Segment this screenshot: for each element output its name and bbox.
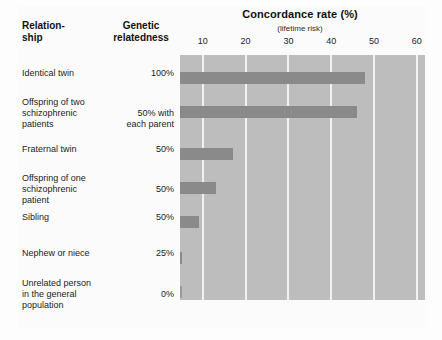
- row-value-line: each parent: [104, 119, 174, 130]
- row-value-line: 50%: [104, 212, 174, 223]
- bar-row-1: [180, 72, 365, 84]
- row-label-line: population: [22, 300, 108, 311]
- row-value-genetic-relatedness-7: 0%: [104, 289, 174, 300]
- x-axis-tick-20: 20: [241, 36, 251, 46]
- row-value-genetic-relatedness-3: 50%: [104, 144, 174, 155]
- row-label-relationship-5: Sibling: [22, 212, 108, 223]
- row-label-line: schizophrenic: [22, 108, 108, 119]
- row-label-line: in the general: [22, 289, 108, 300]
- row-label-relationship-1: Identical twin: [22, 68, 108, 79]
- bar-row-2: [180, 106, 357, 118]
- plot-area: [180, 55, 425, 300]
- gridline-40: [330, 55, 332, 300]
- x-axis-tick-30: 30: [283, 36, 293, 46]
- row-value-genetic-relatedness-4: 50%: [104, 184, 174, 195]
- row-label-line: Sibling: [22, 212, 108, 223]
- row-value-genetic-relatedness-6: 25%: [104, 248, 174, 259]
- row-label-relationship-7: Unrelated personin the generalpopulation: [22, 278, 108, 311]
- x-axis-tick-60: 60: [412, 36, 422, 46]
- gridline-50: [373, 55, 375, 300]
- row-label-line: Unrelated person: [22, 278, 108, 289]
- bar-row-4: [180, 182, 216, 194]
- row-label-relationship-3: Fraternal twin: [22, 144, 108, 155]
- row-value-line: 50%: [104, 184, 174, 195]
- row-value-line: 50%: [104, 144, 174, 155]
- row-label-line: Fraternal twin: [22, 144, 108, 155]
- gridline-60: [416, 55, 418, 300]
- x-axis-tick-10: 10: [198, 36, 208, 46]
- row-label-relationship-4: Offspring of oneschizophrenicpatient: [22, 173, 108, 206]
- row-value-line: 25%: [104, 248, 174, 259]
- row-label-line: patients: [22, 119, 108, 130]
- row-label-line: schizophrenic: [22, 184, 108, 195]
- row-label-relationship-6: Nephew or niece: [22, 248, 108, 259]
- row-label-line: Offspring of one: [22, 173, 108, 184]
- bar-row-3: [180, 148, 233, 160]
- row-label-line: Offspring of two: [22, 97, 108, 108]
- bar-row-5: [180, 216, 199, 228]
- row-label-relationship-2: Offspring of twoschizophrenicpatients: [22, 97, 108, 130]
- bar-row-6: [180, 252, 182, 264]
- row-value-genetic-relatedness-2: 50% witheach parent: [104, 108, 174, 130]
- x-axis-tick-50: 50: [369, 36, 379, 46]
- row-label-line: Nephew or niece: [22, 248, 108, 259]
- row-value-line: 0%: [104, 289, 174, 300]
- row-value-line: 100%: [104, 68, 174, 79]
- row-value-line: 50% with: [104, 108, 174, 119]
- row-label-line: patient: [22, 195, 108, 206]
- gridline-30: [287, 55, 289, 300]
- x-axis-tick-40: 40: [326, 36, 336, 46]
- row-value-genetic-relatedness-5: 50%: [104, 212, 174, 223]
- row-label-line: Identical twin: [22, 68, 108, 79]
- gridline-10: [202, 55, 204, 300]
- bar-row-7: [180, 286, 182, 298]
- gridline-20: [245, 55, 247, 300]
- row-value-genetic-relatedness-1: 100%: [104, 68, 174, 79]
